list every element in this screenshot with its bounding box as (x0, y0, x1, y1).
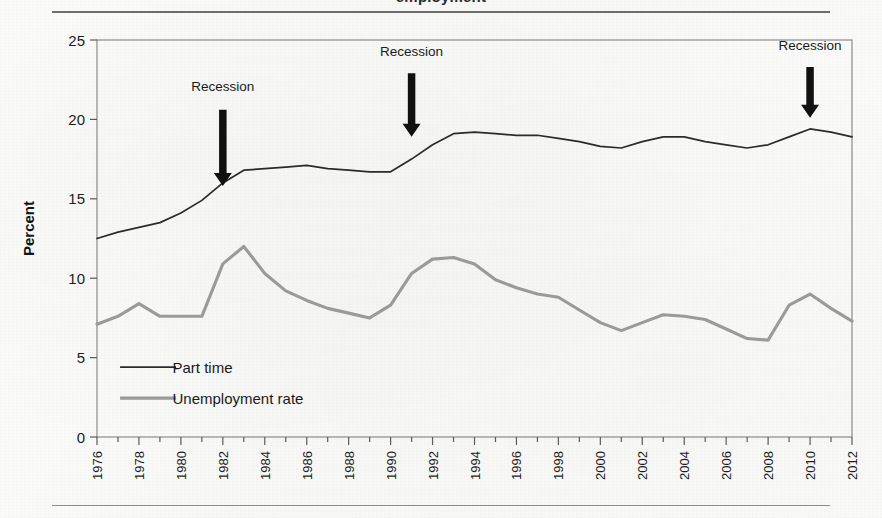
recession-annotation-3: Recession (779, 38, 842, 118)
data-series (97, 129, 852, 340)
recession-label: Recession (380, 44, 443, 59)
x-tick-label: 1984 (258, 451, 273, 480)
x-tick-label: 2002 (635, 451, 650, 480)
x-tick-label: 1988 (342, 451, 357, 480)
x-tick-label: 2004 (677, 451, 692, 480)
y-tick-label: 5 (77, 349, 85, 366)
x-tick-label: 1994 (468, 451, 483, 480)
y-tick-label: 25 (68, 32, 85, 49)
chart-legend: Part timeUnemployment rate (120, 359, 303, 407)
recession-label: Recession (191, 79, 254, 94)
legend-label-1: Part time (173, 359, 233, 376)
x-tick-label: 2010 (803, 451, 818, 480)
x-tick-label: 1992 (426, 451, 441, 480)
y-tick-label: 20 (68, 111, 85, 128)
x-tick-label: 2006 (719, 451, 734, 480)
recession-label: Recession (779, 38, 842, 53)
recession-annotations: RecessionRecessionRecession (191, 38, 841, 187)
x-tick-label: 1976 (90, 451, 105, 480)
y-axis-ticks: 0510152025 (68, 32, 97, 446)
recession-arrow-icon (801, 67, 819, 118)
x-tick-label: 1996 (509, 451, 524, 480)
chart-svg: 0510152025 19761978198019821984198619881… (0, 0, 882, 518)
x-tick-label: 1982 (216, 451, 231, 480)
x-tick-label: 1990 (384, 451, 399, 480)
x-axis-ticks: 1976197819801982198419861988199019921994… (90, 437, 860, 480)
x-tick-label: 1986 (300, 451, 315, 480)
recession-arrow-icon (214, 110, 232, 186)
x-tick-label: 2012 (845, 451, 860, 480)
y-tick-label: 15 (68, 190, 85, 207)
plot-frame (97, 40, 852, 437)
series-line-2 (97, 246, 852, 340)
series-line-1 (97, 129, 852, 239)
x-tick-label: 1998 (551, 451, 566, 480)
y-tick-label: 0 (77, 429, 85, 446)
y-tick-label: 10 (68, 270, 85, 287)
legend-label-2: Unemployment rate (173, 390, 304, 407)
recession-annotation-2: Recession (380, 44, 443, 137)
x-tick-label: 1980 (174, 451, 189, 480)
x-tick-label: 1978 (132, 451, 147, 480)
recession-arrow-icon (403, 73, 421, 137)
y-axis-title: Percent (20, 201, 37, 256)
x-tick-label: 2008 (761, 451, 776, 480)
x-tick-label: 2000 (593, 451, 608, 480)
chart-figure: 0510152025 19761978198019821984198619881… (0, 0, 882, 518)
plot-border (97, 40, 852, 437)
